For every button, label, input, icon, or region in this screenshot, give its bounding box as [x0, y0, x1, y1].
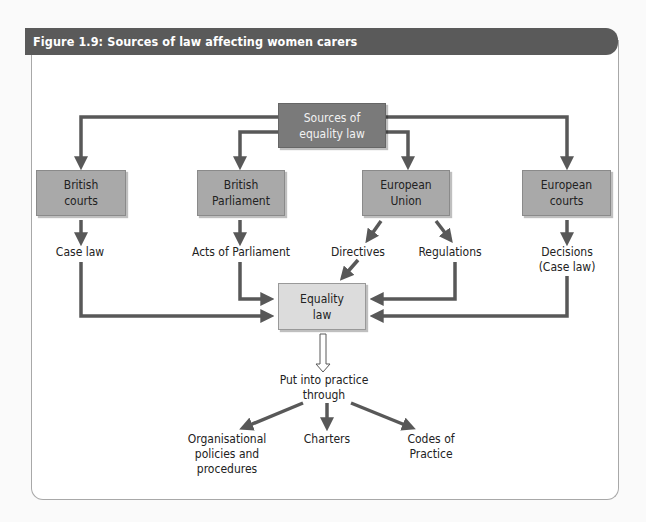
node-european-courts: Europeancourts — [522, 170, 611, 216]
node-european-union: EuropeanUnion — [362, 170, 450, 216]
label-charters: Charters — [304, 432, 350, 447]
arrow-to-org-policies — [245, 403, 303, 427]
label-put-into-practice: Put into practice through — [280, 373, 369, 403]
node-equality-law: Equalitylaw — [278, 283, 366, 330]
node-british-parliament: BritishParliament — [197, 170, 285, 216]
arrow-to-codes — [351, 403, 410, 427]
arrow-decisions-to-equality — [376, 276, 567, 316]
node-british-courts: Britishcourts — [36, 170, 126, 216]
arrow-to-regulations — [436, 221, 449, 238]
arrow-acts-to-equality — [240, 262, 268, 299]
arrow-directives-to-equality — [344, 260, 358, 276]
label-acts-of-parliament: Acts of Parliament — [192, 245, 290, 260]
arrow-regulations-to-equality — [376, 262, 455, 299]
arrow-to-british-courts — [81, 117, 278, 164]
label-case-law: Case law — [56, 245, 104, 260]
label-regulations: Regulations — [418, 245, 481, 260]
arrow-to-british-parliament — [240, 132, 278, 164]
hollow-arrow-icon — [316, 334, 330, 372]
node-sources: Sources ofequality law — [278, 103, 386, 148]
arrow-to-european-courts — [386, 117, 567, 164]
arrow-to-european-union — [386, 132, 408, 164]
label-decisions: Decisions (Case law) — [539, 245, 596, 275]
arrow-to-directives — [369, 221, 381, 238]
label-organisational-policies: Organisational policies and procedures — [188, 432, 267, 477]
label-directives: Directives — [331, 245, 385, 260]
label-codes-of-practice: Codes of Practice — [407, 432, 454, 462]
